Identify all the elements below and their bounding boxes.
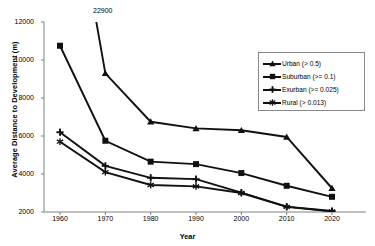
- data-point-square: [284, 183, 290, 189]
- legend-label-urban: Urban (> 0.5): [282, 60, 321, 67]
- data-point-plus: [192, 176, 199, 183]
- legend-item-urban[interactable]: Urban (> 0.5): [263, 57, 360, 70]
- chart-container: Average Distance to Development (m) Year…: [0, 0, 375, 246]
- chart-legend: Urban (> 0.5) Suburban (>= 0.1) Exurban …: [258, 52, 365, 111]
- legend-item-exurban[interactable]: Exurban (>= 0.025): [263, 83, 360, 96]
- data-point-square: [329, 194, 335, 200]
- legend-label-suburban: Suburban (>= 0.1): [282, 73, 336, 80]
- plot-area: [0, 0, 375, 246]
- legend-label-exurban: Exurban (>= 0.025): [282, 86, 339, 93]
- data-point-square: [57, 43, 63, 49]
- legend-marker-plus-icon: [263, 85, 281, 94]
- data-point-square: [102, 138, 108, 144]
- legend-marker-asterisk-icon: [263, 98, 281, 107]
- data-point-square: [148, 159, 154, 165]
- legend-item-rural[interactable]: Rural (> 0.013): [263, 96, 360, 109]
- legend-item-suburban[interactable]: Suburban (>= 0.1): [263, 70, 360, 83]
- legend-marker-triangle-icon: [263, 59, 281, 68]
- data-point-triangle: [102, 70, 109, 76]
- data-point-square: [193, 161, 199, 167]
- data-point-plus: [147, 174, 154, 181]
- legend-marker-square-icon: [263, 72, 281, 81]
- data-point-square: [238, 170, 244, 176]
- legend-label-rural: Rural (> 0.013): [282, 99, 326, 106]
- series-exurban: [56, 129, 335, 215]
